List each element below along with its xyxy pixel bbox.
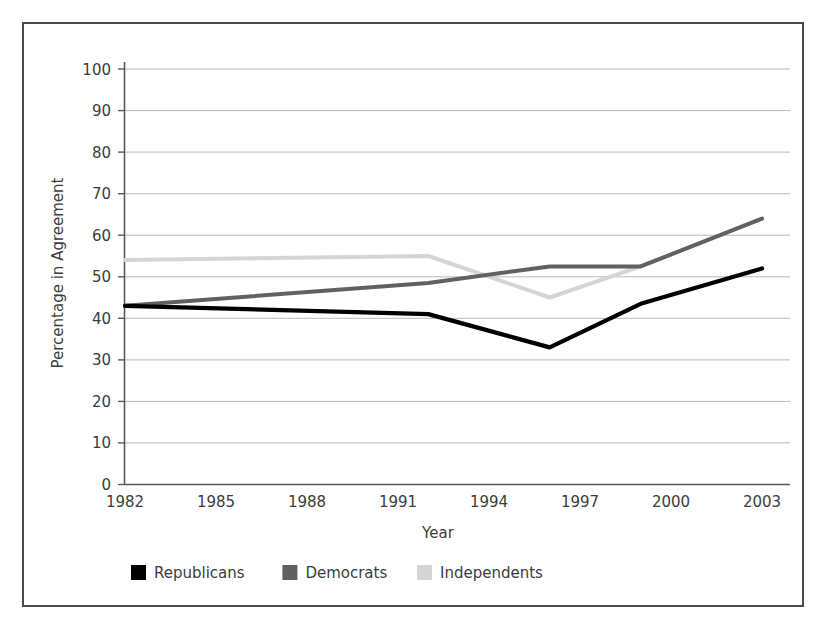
y-tick-label: 70 [92,185,111,203]
y-tick-label: 80 [92,144,111,162]
y-tick-label: 90 [92,102,111,120]
x-tick-label: 2003 [743,493,781,511]
x-axis-title: Year [421,524,455,542]
y-tick-label: 10 [92,434,111,452]
legend-swatch [131,565,146,580]
y-axis-tick-labels: 0102030405060708090100 [82,61,111,495]
chart-figure: 0102030405060708090100 19821985198819911… [0,0,826,637]
legend-swatch [282,565,297,580]
x-tick-label: 1997 [561,493,599,511]
legend-label: Democrats [305,564,387,582]
legend-label: Independents [440,564,543,582]
y-tick-label: 100 [82,61,111,79]
y-tick-label: 0 [101,476,111,494]
y-tick-label: 40 [92,310,111,328]
legend-label: Republicans [154,564,245,582]
x-tick-label: 1985 [197,493,235,511]
line-chart: 0102030405060708090100 19821985198819911… [0,0,826,637]
legend-swatch [417,565,432,580]
x-axis-tick-labels: 19821985198819911994199720002003 [106,493,781,511]
x-tick-label: 1988 [288,493,326,511]
chart-legend: RepublicansDemocratsIndependents [131,564,543,582]
y-tick-label: 60 [92,227,111,245]
gridlines [125,69,790,443]
x-tick-label: 1991 [379,493,417,511]
y-axis-title: Percentage in Agreement [49,177,67,368]
data-series-group [125,219,762,348]
y-tick-label: 50 [92,268,111,286]
x-tick-label: 2000 [652,493,690,511]
x-tick-label: 1982 [106,493,144,511]
x-tick-label: 1994 [470,493,508,511]
y-tick-label: 20 [92,393,111,411]
y-tick-label: 30 [92,351,111,369]
